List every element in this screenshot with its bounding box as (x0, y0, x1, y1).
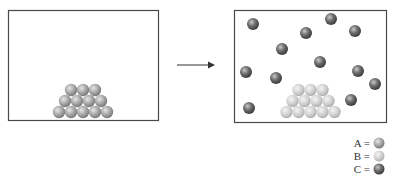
right-panel (235, 11, 387, 123)
particle-A (65, 106, 77, 118)
particle-B (304, 106, 316, 118)
particle-A (89, 106, 101, 118)
particle-C (243, 102, 255, 114)
legend-item-A: A = (354, 137, 385, 149)
reaction-diagram: A = B = C = (0, 0, 399, 181)
particle-A (89, 84, 101, 96)
particle-A (77, 106, 89, 118)
particle-C (247, 18, 259, 30)
left-container-frame (9, 11, 159, 121)
particle-C (270, 72, 282, 84)
particle-C (352, 65, 364, 77)
legend-sphere-C-icon (374, 164, 385, 175)
particle-C (345, 94, 357, 106)
particle-B (322, 95, 334, 107)
particle-A (59, 95, 71, 107)
particle-B (316, 84, 328, 96)
legend-item-B: B = (354, 150, 385, 162)
particle-B (280, 106, 292, 118)
particle-B (292, 84, 304, 96)
legend: A = B = C = (354, 137, 385, 175)
particle-A (71, 95, 83, 107)
particle-C (276, 43, 288, 55)
particle-B (304, 84, 316, 96)
left-panel (9, 11, 159, 121)
legend-sphere-B-icon (374, 151, 385, 162)
legend-sphere-A-icon (374, 138, 385, 149)
particle-C (314, 56, 326, 68)
particle-A (101, 106, 113, 118)
particle-A (77, 84, 89, 96)
legend-item-C: C = (354, 163, 385, 175)
particle-C (349, 25, 361, 37)
particle-C (325, 13, 337, 25)
particle-B (328, 106, 340, 118)
particle-A (83, 95, 95, 107)
arrow-head-icon (208, 62, 215, 69)
particle-C (369, 78, 381, 90)
particle-A (95, 95, 107, 107)
particle-C (300, 27, 312, 39)
legend-label-C: C = (354, 163, 370, 175)
particle-C (240, 66, 252, 78)
particle-B (286, 95, 298, 107)
particle-B (298, 95, 310, 107)
legend-label-B: B = (354, 150, 370, 162)
particle-B (292, 106, 304, 118)
legend-label-A: A = (354, 137, 370, 149)
particle-B (310, 95, 322, 107)
particle-B (316, 106, 328, 118)
reaction-arrow (177, 62, 215, 69)
particle-A (65, 84, 77, 96)
particle-A (53, 106, 65, 118)
